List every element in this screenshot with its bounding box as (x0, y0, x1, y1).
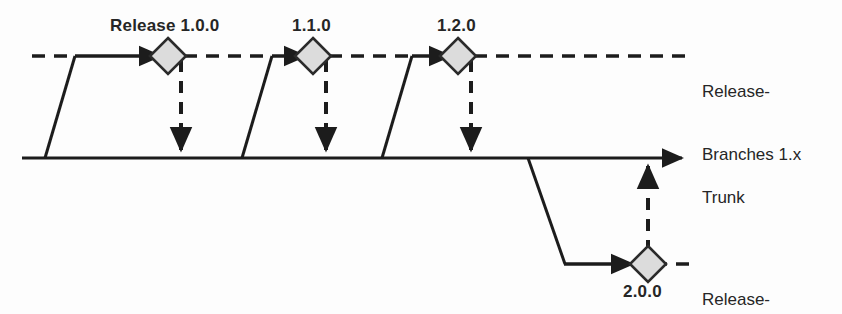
release-label-120: 1.2.0 (437, 16, 476, 37)
merge-back-arrows (181, 60, 648, 252)
lane-label-release-branches-1x-line1: Release- (702, 82, 801, 103)
branch-cut-2 (242, 56, 272, 158)
release-diamond-200[interactable] (630, 246, 666, 282)
release-label-110: 1.1.0 (292, 16, 331, 37)
release-label-100: Release 1.0.0 (110, 16, 219, 37)
branch-cut-lines (45, 56, 412, 158)
branch-cut-3 (382, 56, 412, 158)
lane-release-branch-200 (528, 158, 694, 264)
lane-label-release-branch-200-line1: Release- (702, 290, 798, 311)
release-label-200: 2.0.0 (623, 282, 662, 303)
lane-label-release-branch-200: Release- Branch 2.0.0 (702, 249, 798, 314)
branch-cut-1 (45, 56, 75, 158)
branch-cut-200 (528, 158, 565, 264)
lane-label-trunk-line1: Trunk (702, 188, 745, 209)
lane-label-trunk: Trunk (702, 147, 745, 251)
branching-diagram: Release 1.0.0 1.1.0 1.2.0 2.0.0 Release-… (0, 0, 842, 314)
